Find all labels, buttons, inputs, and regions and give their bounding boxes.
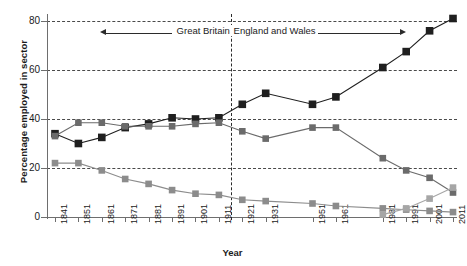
data-point-agriculture (309, 200, 316, 207)
data-point-agriculture (169, 187, 176, 194)
data-point-manufacturing (122, 123, 129, 130)
data-point-agriculture (192, 190, 199, 197)
data-point-agriculture (122, 176, 129, 183)
data-point-manufacturing (169, 123, 176, 130)
data-point-services (75, 140, 83, 148)
data-point-services (379, 64, 387, 72)
data-point-services (449, 15, 457, 23)
data-point-manufacturing (99, 119, 106, 126)
data-point-manufacturing (380, 155, 387, 162)
data-point-agriculture (145, 181, 152, 188)
data-point-services (309, 101, 317, 109)
series-agriculture (52, 160, 457, 216)
series-line-agriculture (55, 163, 453, 212)
data-point-manufacturing (52, 133, 59, 140)
data-point-agriculture (52, 160, 59, 167)
data-point-services (402, 48, 410, 56)
series-services (51, 15, 457, 148)
data-point-manufacturing (75, 119, 82, 126)
data-point-manufacturing (426, 175, 433, 182)
data-point-agriculture (450, 209, 457, 216)
data-point-agriculture (99, 167, 106, 174)
x-axis-title: Year (0, 247, 465, 258)
data-point-services (98, 134, 106, 142)
data-point-services (426, 27, 434, 35)
data-point-agriculture (380, 205, 387, 212)
data-point-services (168, 114, 176, 122)
data-point-manufacturing (239, 128, 246, 135)
data-point-manufacturing (216, 119, 223, 126)
data-point-manufacturing (262, 135, 269, 142)
data-point-services (332, 93, 340, 101)
data-point-agriculture (426, 208, 433, 215)
series-line-manufacturing (55, 123, 453, 193)
data-point-agriculture (216, 192, 223, 199)
data-point-agriculture (75, 160, 82, 167)
data-point-other (380, 211, 387, 218)
data-point-other (403, 205, 410, 212)
series-other (380, 184, 457, 218)
data-point-manufacturing (309, 124, 316, 131)
data-point-agriculture (333, 203, 340, 210)
data-point-other (450, 184, 457, 191)
data-point-manufacturing (403, 167, 410, 174)
data-point-services (239, 101, 247, 109)
data-point-other (426, 195, 433, 202)
data-point-agriculture (262, 198, 269, 205)
data-point-manufacturing (192, 121, 199, 128)
data-point-manufacturing (145, 123, 152, 130)
data-point-manufacturing (333, 124, 340, 131)
data-point-agriculture (239, 197, 246, 204)
series-manufacturing (52, 119, 457, 195)
data-point-services (262, 90, 270, 98)
